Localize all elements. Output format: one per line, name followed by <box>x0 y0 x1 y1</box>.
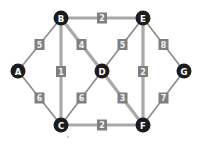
nodes-layer: ABCDEFG <box>11 11 192 133</box>
weight-value: 7 <box>161 94 167 103</box>
weight-value: 6 <box>79 94 85 103</box>
weight-value: 1 <box>58 68 64 77</box>
weight-value: 5 <box>120 41 126 50</box>
node-e: E <box>136 11 151 26</box>
edge-weight-label-d-e: 5 <box>118 39 128 50</box>
node-label: C <box>58 121 64 131</box>
edge-weight-label-a-c: 6 <box>35 93 45 104</box>
edge-weight-label-a-b: 5 <box>35 39 45 50</box>
small-mark <box>67 136 69 138</box>
weight-value: 5 <box>37 41 43 50</box>
edge-weight-label-d-f: 3 <box>118 93 128 104</box>
node-c: C <box>54 118 69 133</box>
node-g: G <box>177 64 192 79</box>
weight-value: 2 <box>140 68 146 77</box>
weight-value: 2 <box>99 121 105 130</box>
node-label: F <box>140 121 146 131</box>
weighted-graph-diagram: 561426253287 ABCDEFG <box>0 0 204 145</box>
node-b: B <box>54 11 69 26</box>
edge-weight-label-c-f: 2 <box>97 120 107 131</box>
node-label: D <box>98 67 105 77</box>
weight-value: 8 <box>161 41 167 50</box>
node-d: D <box>95 64 110 79</box>
weight-value: 2 <box>99 14 105 23</box>
edge-weight-label-c-d: 6 <box>77 93 87 104</box>
node-label: B <box>58 14 64 24</box>
edge-weight-label-f-g: 7 <box>159 93 169 104</box>
edge-weight-label-e-f: 2 <box>138 66 148 77</box>
weight-value: 4 <box>79 41 85 50</box>
node-a: A <box>11 64 26 79</box>
node-f: F <box>136 118 151 133</box>
node-label: E <box>140 14 146 24</box>
edge-weight-label-b-d: 4 <box>77 39 87 50</box>
node-label: A <box>15 67 22 77</box>
edge-weight-label-b-c: 1 <box>56 66 66 77</box>
node-label: G <box>181 67 188 77</box>
edge-weight-label-e-g: 8 <box>159 39 169 50</box>
edge-weight-label-b-e: 2 <box>97 13 107 24</box>
weight-value: 6 <box>37 94 43 103</box>
weight-value: 3 <box>120 94 126 103</box>
